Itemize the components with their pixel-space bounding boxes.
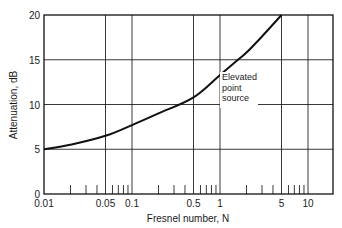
y-tick-label: 15 xyxy=(29,55,41,66)
y-tick-label: 10 xyxy=(29,100,41,111)
grid-lines xyxy=(44,15,333,194)
annotation-line: source xyxy=(222,93,249,103)
annotation-line: point xyxy=(222,83,242,93)
y-tick-labels: 05101520 xyxy=(29,10,41,200)
x-tick-labels: 0.010.050.10.51510 xyxy=(34,198,314,209)
y-tick-label: 5 xyxy=(34,144,40,155)
y-axis-title: Attenuation, dB xyxy=(8,70,19,139)
y-tick-label: 20 xyxy=(29,10,41,21)
attenuation-chart: Elevatedpointsource 05101520 0.010.050.1… xyxy=(0,0,342,228)
x-tick-label: 1 xyxy=(217,198,223,209)
x-tick-label: 10 xyxy=(302,198,314,209)
x-tick-label: 0.05 xyxy=(96,198,116,209)
x-tick-label: 0.01 xyxy=(34,198,54,209)
x-tick-label: 5 xyxy=(279,198,285,209)
annotation-line: Elevated xyxy=(222,72,257,82)
x-tick-label: 0.5 xyxy=(187,198,201,209)
x-tick-label: 0.1 xyxy=(125,198,139,209)
x-axis-title: Fresnel number, N xyxy=(147,213,229,224)
